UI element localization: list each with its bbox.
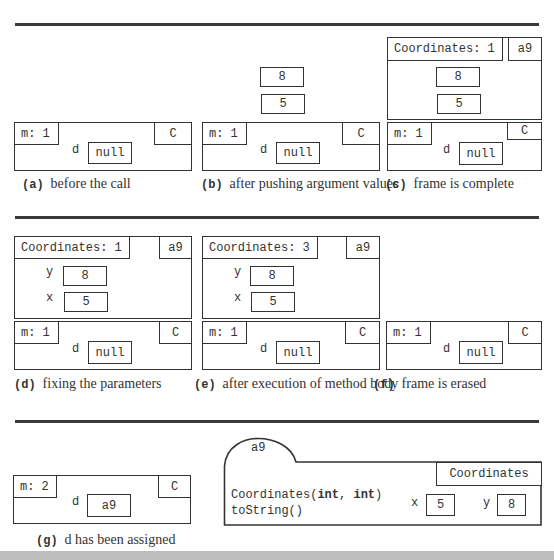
caption-text: frame is erased xyxy=(402,376,487,391)
variable-value: null xyxy=(459,142,503,165)
object-name: a9 xyxy=(251,441,265,455)
call-frame-scope-label: a9 xyxy=(508,37,542,61)
frame-class-label: C xyxy=(508,321,542,344)
call-frame-method-label: Coordinates: 1 xyxy=(14,236,130,259)
call-frame-method-label: Coordinates: 3 xyxy=(202,236,318,259)
frame-class-label: C xyxy=(342,122,380,145)
frame-method-label: m: 1 xyxy=(387,122,432,145)
caption-tag: (f) xyxy=(373,378,395,392)
variable-value: null xyxy=(276,142,320,164)
param-value: 8 xyxy=(250,266,294,286)
separator-rule-top xyxy=(15,23,539,26)
type-keyword: int xyxy=(353,488,375,502)
caption-text: after execution of method body xyxy=(223,376,399,391)
caption-text: frame is complete xyxy=(414,176,514,191)
method-signature-prefix: Coordinates( xyxy=(231,488,317,502)
frame-class-label: C xyxy=(158,475,191,498)
frame-method-label: m: 2 xyxy=(13,475,57,498)
caption-g: (g)d has been assigned xyxy=(36,532,175,548)
frame-method-label: m: 1 xyxy=(386,321,431,344)
param-value: 5 xyxy=(64,292,108,312)
variable-name: d xyxy=(443,342,450,356)
param-name: x xyxy=(46,291,53,305)
caption-d: (d)fixing the parameters xyxy=(14,376,162,392)
frame-value: 8 xyxy=(436,67,480,87)
variable-value: null xyxy=(88,142,132,164)
caption-tag: (d) xyxy=(14,378,36,392)
variable-name: d xyxy=(443,143,450,157)
variable-value: a9 xyxy=(87,494,131,517)
frame-value: 5 xyxy=(437,94,481,114)
method-signature-separator: , xyxy=(339,488,353,502)
call-frame-scope-label: a9 xyxy=(159,236,192,259)
caption-e: (e)after execution of method body xyxy=(194,376,398,392)
caption-text: fixing the parameters xyxy=(43,376,162,391)
frame-class-label: C xyxy=(507,122,542,140)
variable-name: d xyxy=(72,495,79,509)
method-signature-suffix: ) xyxy=(375,488,382,502)
figure-caption-bar-cropped xyxy=(0,551,554,560)
caption-text: d has been assigned xyxy=(65,532,176,547)
frame-method-label: m: 1 xyxy=(14,122,59,145)
pushed-value: 8 xyxy=(260,67,304,87)
caption-text: before the call xyxy=(51,176,131,191)
object-class-label: Coordinates xyxy=(436,462,542,486)
param-value: 8 xyxy=(63,266,107,286)
object-method: toString() xyxy=(231,504,303,518)
caption-tag: (c) xyxy=(385,178,407,192)
type-keyword: int xyxy=(317,488,339,502)
variable-value: null xyxy=(88,341,132,364)
call-frame-scope-label: a9 xyxy=(346,236,380,259)
variable-name: d xyxy=(260,143,267,157)
frame-method-label: m: 1 xyxy=(202,321,247,344)
param-value: 5 xyxy=(251,292,295,312)
caption-f: (f)frame is erased xyxy=(373,376,486,392)
caption-c: (c)frame is complete xyxy=(385,176,514,192)
separator-rule-middle xyxy=(15,216,539,219)
variable-value: null xyxy=(459,341,503,364)
frame-method-label: m: 1 xyxy=(14,321,59,344)
frame-method-label: m: 1 xyxy=(202,122,247,145)
call-frame-method-label: Coordinates: 1 xyxy=(387,37,503,61)
param-name: y xyxy=(46,265,53,279)
caption-tag: (a) xyxy=(22,178,44,192)
frame-class-label: C xyxy=(345,321,380,344)
caption-tag: (e) xyxy=(194,378,216,392)
variable-value: null xyxy=(276,341,320,364)
caption-text: after pushing argument values xyxy=(230,176,399,191)
field-name: x xyxy=(411,496,418,510)
variable-name: d xyxy=(72,342,79,356)
separator-rule-bottom xyxy=(15,420,539,423)
frame-class-label: C xyxy=(159,321,192,344)
caption-b: (b)after pushing argument values xyxy=(201,176,398,192)
field-value: 8 xyxy=(497,494,526,516)
param-name: x xyxy=(234,291,241,305)
param-name: y xyxy=(234,265,241,279)
field-value: 5 xyxy=(426,494,455,516)
caption-tag: (b) xyxy=(201,178,223,192)
variable-name: d xyxy=(72,143,79,157)
frame-class-label: C xyxy=(154,122,192,145)
pushed-value: 5 xyxy=(261,94,305,114)
caption-a: (a)before the call xyxy=(22,176,131,192)
variable-name: d xyxy=(260,342,267,356)
field-name: y xyxy=(483,496,490,510)
object-method: Coordinates(int, int) xyxy=(231,488,382,502)
caption-tag: (g) xyxy=(36,534,58,548)
